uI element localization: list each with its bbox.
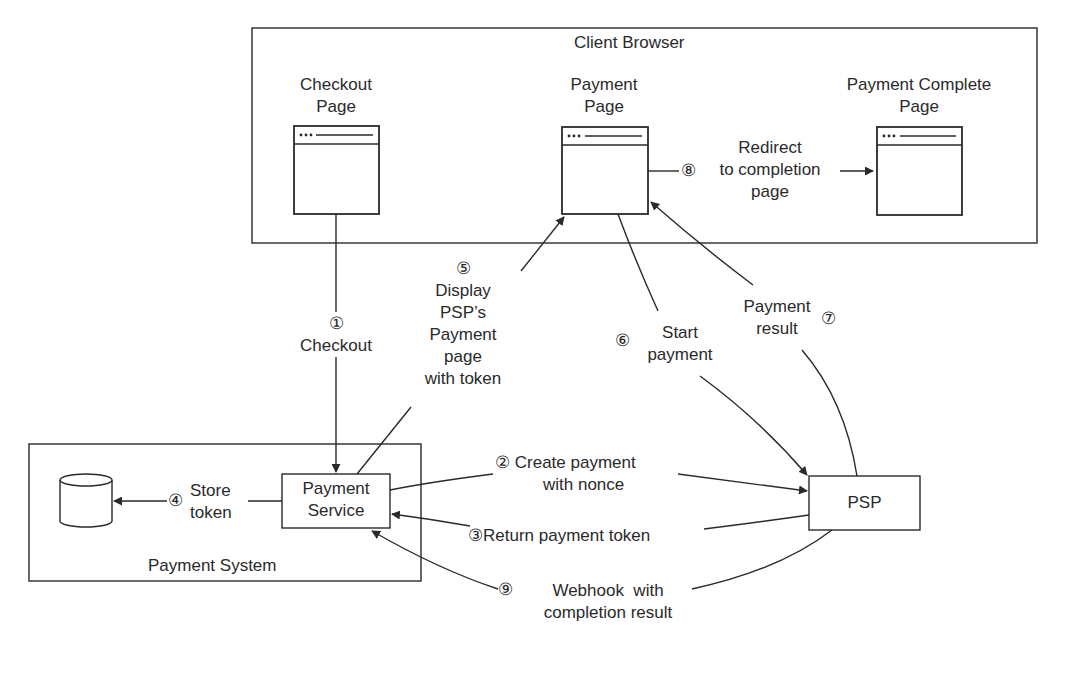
payment-complete-page-icon[interactable]	[877, 127, 962, 215]
payment-complete-page-label: Payment Complete Page	[826, 74, 1012, 118]
psp-label: PSP	[809, 492, 920, 514]
step-6-label: Start payment	[638, 322, 722, 366]
step-7-label: Payment result	[736, 296, 818, 340]
step-1-label: ① Checkout	[290, 313, 382, 357]
step-8-label: Redirect to completion page	[700, 137, 840, 203]
step-4-text: Store token	[190, 480, 246, 524]
step-6-num: ⑥	[615, 330, 630, 352]
step-2-label-line2: with nonce	[543, 474, 624, 496]
step-5-label: ⑤ Display PSP’s Payment page with token	[408, 258, 518, 390]
step-4-label: ④	[168, 490, 183, 512]
step-2-label: ② Create payment	[495, 452, 636, 474]
step-9-num: ⑨	[498, 579, 513, 601]
step-8-num: ⑧	[681, 160, 696, 182]
payment-page-icon[interactable]	[562, 127, 648, 214]
step-3-label: ③Return payment token	[468, 525, 650, 547]
step-7-num: ⑦	[821, 308, 836, 330]
database-icon[interactable]	[60, 474, 112, 527]
checkout-page-label: Checkout Page	[290, 74, 382, 118]
checkout-page-icon[interactable]	[294, 126, 379, 214]
payment-page-label: Payment Page	[558, 74, 650, 118]
payment-service-label: Payment Service	[282, 478, 390, 522]
client-browser-title: Client Browser	[574, 32, 685, 54]
payment-system-title: Payment System	[148, 555, 277, 577]
step-9-label: Webhook with completion result	[520, 580, 696, 624]
